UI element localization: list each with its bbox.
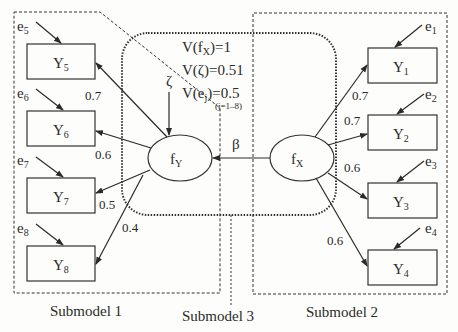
loading-y2: 0.7: [344, 113, 361, 128]
path-fx-y4: [316, 178, 367, 266]
svg-text:e7: e7: [17, 152, 29, 170]
svg-text:Y3: Y3: [393, 194, 409, 212]
indicator-y8: Y8: [27, 246, 95, 281]
svg-text:e3: e3: [425, 153, 437, 171]
indicator-y3: Y3: [368, 183, 437, 218]
loading-y1: 0.7: [352, 88, 369, 103]
indicator-y2: Y2: [368, 115, 437, 150]
svg-text:(j=1–8): (j=1–8): [215, 101, 242, 111]
latent-fx: fX: [270, 135, 334, 181]
path-fy-y6: [96, 131, 151, 148]
loading-y8: 0.4: [122, 220, 139, 235]
loading-y6: 0.6: [95, 147, 112, 162]
indicator-y1: Y1: [368, 48, 437, 83]
error-e3: e3: [397, 153, 437, 182]
svg-text:e6: e6: [17, 85, 29, 103]
submodel-2-label: Submodel 2: [306, 304, 378, 320]
svg-text:Y5: Y5: [53, 55, 69, 73]
submodel-3-label: Submodel 3: [182, 308, 254, 324]
sem-diagram: Y5 Y6 Y7 Y8 e5 e6 e7 e8 fY 0.7 0.6 0.5 0…: [0, 0, 458, 332]
svg-text:Y2: Y2: [393, 126, 409, 144]
path-fy-y5: [96, 63, 167, 137]
indicator-y6: Y6: [27, 111, 95, 146]
submodel-2-boundary: [253, 13, 447, 294]
error-e2: e2: [397, 86, 437, 114]
error-e5: e5: [17, 18, 61, 43]
svg-text:V(ζ)=0.51: V(ζ)=0.51: [182, 62, 244, 79]
svg-text:Y4: Y4: [393, 261, 409, 279]
loading-y3: 0.6: [344, 160, 361, 175]
svg-text:e8: e8: [17, 220, 29, 238]
indicator-y7: Y7: [27, 178, 95, 213]
error-e1: e1: [395, 18, 437, 47]
loading-y7: 0.5: [99, 197, 115, 212]
error-e8: e8: [17, 220, 63, 245]
loading-y5: 0.7: [85, 88, 102, 103]
loading-y4: 0.6: [327, 233, 344, 248]
svg-text:Y8: Y8: [53, 257, 69, 275]
svg-text:Y6: Y6: [53, 122, 69, 140]
svg-text:e1: e1: [425, 18, 437, 36]
latent-fy: fY: [148, 135, 212, 181]
beta-label: β: [232, 136, 240, 152]
indicator-y5: Y5: [27, 44, 95, 79]
submodel-1-label: Submodel 1: [50, 303, 122, 319]
svg-text:Y1: Y1: [393, 59, 409, 77]
zeta-label: ζ: [166, 73, 172, 89]
svg-text:Y7: Y7: [53, 189, 69, 207]
path-fx-y3: [328, 173, 367, 199]
svg-text:e2: e2: [425, 86, 437, 104]
indicator-y4: Y4: [368, 250, 437, 285]
error-e6: e6: [17, 85, 63, 110]
error-e7: e7: [17, 152, 63, 177]
svg-text:fY: fY: [170, 151, 182, 169]
path-fx-y2: [328, 134, 367, 145]
svg-text:e4: e4: [425, 220, 437, 238]
svg-text:fX: fX: [291, 151, 304, 169]
svg-text:V(fX)=1: V(fX)=1: [182, 39, 231, 57]
error-e4: e4: [394, 220, 437, 249]
svg-text:e5: e5: [17, 18, 29, 36]
variance-info: V(fX)=1 V(ζ)=0.51 V(ej)=0.5 (j=1–8): [182, 39, 244, 111]
